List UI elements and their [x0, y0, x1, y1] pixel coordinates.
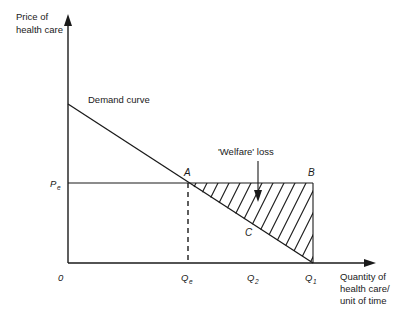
x-tick-origin: 0 — [58, 272, 64, 283]
y-axis-title: Price of health care — [16, 11, 63, 35]
x-tick-q2: Q 2 — [247, 272, 259, 285]
x-tick-qe-sub: e — [189, 278, 193, 285]
y-axis-title-line-2: health care — [16, 24, 63, 35]
point-label-b: B — [308, 167, 315, 178]
x-tick-q2-sub: 2 — [254, 278, 259, 285]
y-axis-arrowhead — [64, 14, 72, 26]
x-tick-q2-main: Q — [247, 272, 255, 283]
demand-curve-label: Demand curve — [88, 94, 150, 105]
x-axis-arrowhead — [364, 259, 376, 267]
chart-canvas: Price of health care Quantity of health … — [0, 0, 408, 316]
x-axis-title-line-2: health care/ — [340, 283, 390, 294]
point-label-a: A — [183, 167, 191, 178]
y-axis-title-line-1: Price of — [16, 11, 49, 22]
x-axis-title: Quantity of health care/ unit of time — [340, 271, 390, 306]
x-axis-title-line-3: unit of time — [340, 295, 386, 306]
welfare-loss-hatching — [150, 175, 354, 275]
x-tick-qe-main: Q — [181, 272, 189, 283]
point-label-c: C — [245, 227, 253, 238]
y-tick-pe-sub: e — [57, 184, 61, 191]
y-tick-pe-main: P — [50, 178, 57, 189]
y-tick-pe: P e — [50, 178, 61, 191]
x-tick-q1: Q 1 — [305, 272, 317, 285]
x-axis-title-line-1: Quantity of — [340, 271, 386, 282]
axes-group — [64, 14, 376, 267]
x-tick-q1-sub: 1 — [313, 278, 317, 285]
welfare-loss-label: 'Welfare' loss — [218, 146, 274, 157]
x-tick-q1-main: Q — [305, 272, 313, 283]
economics-diagram: Price of health care Quantity of health … — [0, 0, 408, 316]
x-tick-qe: Q e — [181, 272, 193, 285]
